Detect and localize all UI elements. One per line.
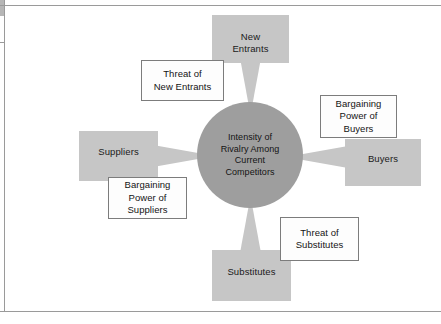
caption-bargaining-power-of-suppliers: BargainingPower ofSuppliers bbox=[108, 177, 187, 219]
connector-buyers bbox=[296, 146, 348, 168]
center-circle: Intensity ofRivalry AmongCurrentCompetit… bbox=[197, 102, 303, 208]
caption-label-threat-of-new-entrants: Threat ofNew Entrants bbox=[154, 68, 212, 93]
connector-new-entrants bbox=[240, 58, 261, 108]
connector-substitutes bbox=[240, 203, 261, 253]
caption-threat-of-new-entrants: Threat ofNew Entrants bbox=[141, 60, 224, 101]
force-box-buyers: Buyers bbox=[345, 139, 421, 186]
center-circle-label: Intensity ofRivalry AmongCurrentCompetit… bbox=[221, 132, 280, 178]
force-label-new-entrants: NewEntrants bbox=[232, 31, 268, 55]
caption-label-bargaining-power-of-buyers: BargainingPower ofBuyers bbox=[336, 98, 382, 136]
page-rule-top bbox=[0, 5, 441, 6]
caption-label-bargaining-power-of-suppliers: BargainingPower ofSuppliers bbox=[125, 179, 171, 217]
force-box-suppliers: Suppliers bbox=[79, 131, 158, 181]
force-label-substitutes: Substitutes bbox=[227, 266, 275, 278]
force-box-new-entrants: NewEntrants bbox=[212, 15, 289, 63]
caption-bargaining-power-of-buyers: BargainingPower ofBuyers bbox=[320, 95, 397, 138]
diagram-canvas: NewEntrants Suppliers Buyers Substitutes… bbox=[0, 0, 441, 324]
caption-label-threat-of-substitutes: Threat ofSubstitutes bbox=[296, 227, 344, 252]
caption-threat-of-substitutes: Threat ofSubstitutes bbox=[280, 217, 359, 261]
page-rule-bottom bbox=[0, 311, 441, 312]
page-rule-upper bbox=[0, 42, 5, 43]
force-label-buyers: Buyers bbox=[368, 153, 398, 165]
force-label-suppliers: Suppliers bbox=[98, 146, 139, 158]
page-rule-left bbox=[4, 0, 5, 312]
